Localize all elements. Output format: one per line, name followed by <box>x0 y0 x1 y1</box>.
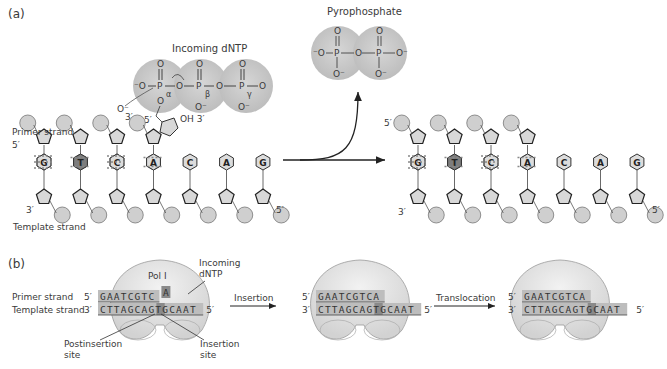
sugar <box>73 189 88 204</box>
pyrophosphate-label: Pyrophosphate <box>327 6 402 17</box>
panel-a-label: (a) <box>8 7 25 21</box>
atom: P <box>376 48 382 58</box>
beta-symbol: β <box>205 90 210 99</box>
sugar <box>410 189 425 204</box>
primer-sequence: GAATCGTCA <box>318 291 380 302</box>
primer-sequence: GAATCGTCA <box>524 291 586 302</box>
sugar <box>447 189 462 204</box>
sugar <box>556 189 571 204</box>
translocation-step-label: Translocation <box>435 293 496 303</box>
svg-text:5′: 5′ <box>508 292 516 302</box>
phosphate <box>91 207 107 223</box>
phosphate <box>467 115 483 131</box>
primer-strand-label: Primer strand <box>12 127 73 137</box>
phosphate <box>465 207 481 223</box>
template-sequence: CTTAGCAGTGCAAT <box>100 304 197 315</box>
phosphate <box>237 207 253 223</box>
sugar <box>520 129 535 144</box>
template-sequence: CTTAGCAGTGCAAT <box>318 304 415 315</box>
phosphate <box>93 115 109 131</box>
svg-text:5′: 5′ <box>636 305 644 315</box>
atom: O⁻ <box>375 69 387 79</box>
base-letter: G <box>259 158 266 168</box>
svg-text:3′: 3′ <box>302 305 310 315</box>
base-letter: A <box>597 158 604 168</box>
incoming-label: Incoming <box>199 258 241 268</box>
sugar <box>629 189 644 204</box>
template-strand-label: Template strand <box>12 222 86 232</box>
atom: O⁻ <box>195 102 207 112</box>
gamma-symbol: γ <box>247 90 252 99</box>
sugar <box>109 129 124 144</box>
base-letter: G <box>633 158 640 168</box>
phosphate <box>54 207 70 223</box>
alpha-symbol: α <box>166 90 171 99</box>
oh-3prime: OH 3′ <box>180 114 204 124</box>
svg-text:5′: 5′ <box>206 305 214 315</box>
template-5prime: 5′ <box>276 205 284 215</box>
phosphate <box>430 115 446 131</box>
after-3prime: 3′ <box>398 207 406 217</box>
pyrophosphate: Pyrophosphate ⁻O P O O⁻ O P O O⁻ O⁻ <box>311 6 408 80</box>
incoming-base: A <box>163 287 170 298</box>
sugar <box>447 129 462 144</box>
template-sequence: CTTAGCAGTGCAAT <box>524 304 621 315</box>
atom: ⁻O <box>134 81 146 91</box>
atom: O <box>157 96 164 106</box>
atom: O⁻ <box>333 69 345 79</box>
phosphate <box>538 207 554 223</box>
template-3prime: 3′ <box>26 205 34 215</box>
phosphate <box>164 207 180 223</box>
atom: O⁻ <box>238 102 250 112</box>
sugar <box>483 189 498 204</box>
postinsertion-site-label: site <box>64 350 81 360</box>
release-arrow-icon <box>300 92 358 160</box>
atom: P <box>157 81 163 91</box>
sugar <box>255 189 270 204</box>
atom: O <box>216 81 223 91</box>
insertion-step-label: Insertion <box>234 293 274 303</box>
sugar <box>146 129 161 144</box>
b-primer-strand-label: Primer strand <box>12 292 73 302</box>
polymerase-state-3: 5′GAATCGTCA3′CTTAGCAGTGCAAT5′ <box>508 260 644 340</box>
phosphate <box>428 207 444 223</box>
primer-sequence: GAATCGTC <box>100 291 155 302</box>
sugar <box>219 189 234 204</box>
sugar <box>73 129 88 144</box>
polymerase-state-2: 5′GAATCGTCA3′CTTAGCAGTGCAAT5′ <box>302 260 432 340</box>
phosphate <box>394 115 410 131</box>
atom: O <box>239 59 246 69</box>
dna-after: CAGTCAGGTCA <box>394 115 664 223</box>
phosphate <box>611 207 627 223</box>
panel-b-label: (b) <box>8 257 25 271</box>
base-letter: C <box>187 158 194 168</box>
atom: O <box>176 81 183 91</box>
atom: O⁻ <box>396 48 408 58</box>
base-letter: A <box>223 158 230 168</box>
sugar <box>520 189 535 204</box>
polymerase-states: 5′GAATCGTCA3′CTTAGCAGTGCAAT5′5′GAATCGTCA… <box>84 260 644 340</box>
atom: O <box>157 59 164 69</box>
atom: O <box>196 59 203 69</box>
after-5prime: 5′ <box>384 118 392 128</box>
sugar <box>410 129 425 144</box>
sugar <box>483 129 498 144</box>
b-template-strand-label: Template strand <box>11 305 85 315</box>
after-template-5prime: 5′ <box>652 205 660 215</box>
svg-text:3′: 3′ <box>84 305 92 315</box>
atom: P <box>196 81 202 91</box>
atom: O <box>259 81 266 91</box>
sugar <box>182 189 197 204</box>
incoming-dntp-label-b: dNTP <box>199 269 223 279</box>
sugar <box>109 189 124 204</box>
insertion-label: Insertion <box>200 339 240 349</box>
dntp-sugar <box>160 118 178 136</box>
atom: O <box>376 26 383 36</box>
phosphate <box>501 207 517 223</box>
atom: O <box>334 26 341 36</box>
insertion-site-label: site <box>200 350 217 360</box>
phosphate <box>129 115 145 131</box>
sugar <box>146 189 161 204</box>
svg-text:3′: 3′ <box>508 305 516 315</box>
svg-text:5′: 5′ <box>302 292 310 302</box>
